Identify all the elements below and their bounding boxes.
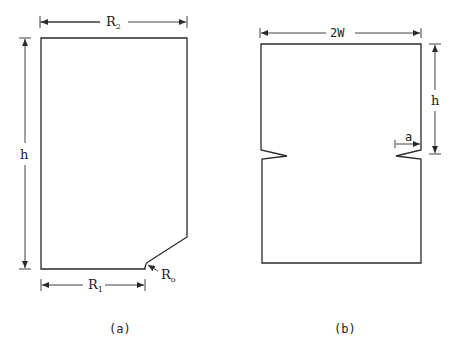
label-r1: R1 [88, 277, 103, 294]
dimension-r1: R1 [41, 277, 145, 294]
dimension-2w: 2W [260, 26, 421, 40]
dimension-r2: R2 [40, 14, 187, 31]
panel-b: 2W h a (b) [260, 26, 441, 336]
panel-a: R2 h R1 Ro (a) [19, 14, 187, 336]
caption-a: (a) [109, 322, 131, 336]
label-2w: 2W [330, 26, 345, 40]
label-r2: R2 [106, 14, 121, 31]
label-h-a: h [20, 147, 29, 162]
dimension-a: a [395, 130, 420, 148]
caption-b: (b) [334, 322, 356, 336]
specimen-a-outline [41, 38, 187, 269]
dimension-h-a: h [19, 38, 31, 269]
label-a: a [405, 130, 412, 144]
figure-canvas: R2 h R1 Ro (a) [0, 0, 457, 352]
fillet-radius-callout: Ro [148, 265, 176, 284]
label-h-b: h [431, 93, 440, 108]
specimen-b-outline [261, 44, 421, 263]
dimension-h-b: h [429, 44, 441, 154]
label-ro: Ro [161, 267, 176, 284]
